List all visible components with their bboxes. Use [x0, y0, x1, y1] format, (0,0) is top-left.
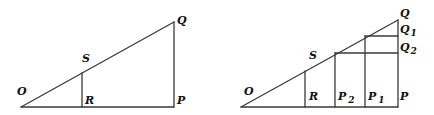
- label-Q: Q: [400, 7, 410, 20]
- label-P2: P2: [337, 90, 355, 105]
- label-O: O: [244, 85, 254, 98]
- label-S: S: [309, 49, 317, 62]
- label-P: P: [176, 94, 186, 107]
- label-P: P: [399, 90, 409, 103]
- label-P1: P1: [367, 90, 385, 105]
- figure-left: O S R P Q: [17, 14, 187, 107]
- label-S: S: [82, 52, 90, 65]
- label-R: R: [84, 94, 94, 107]
- label-Q: Q: [177, 14, 187, 27]
- label-O: O: [17, 85, 27, 98]
- diagram-canvas: O S R P Q O S R P2 P1 P Q Q1 Q2: [0, 0, 434, 115]
- figure-right: O S R P2 P1 P Q Q1 Q2: [241, 7, 417, 107]
- label-R: R: [308, 90, 318, 103]
- segment-OQ: [21, 22, 174, 107]
- label-Q1: Q1: [400, 23, 417, 38]
- similar-triangles-diagram: O S R P Q O S R P2 P1 P Q Q1 Q2: [0, 0, 434, 115]
- label-Q2: Q2: [400, 41, 417, 56]
